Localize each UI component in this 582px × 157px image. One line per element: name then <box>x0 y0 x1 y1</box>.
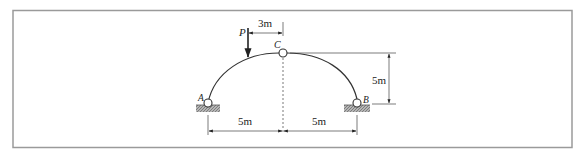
hinge-c-label: C <box>274 39 281 50</box>
hinge-b-icon <box>353 99 361 107</box>
hinge-b-label: B <box>363 95 369 105</box>
dim-left-span-label: 5m <box>238 115 253 127</box>
dim-right-span-label: 5m <box>312 115 327 127</box>
load-p-label: P <box>238 26 246 38</box>
hinge-c-icon <box>279 49 287 57</box>
arch-right-half <box>287 53 357 99</box>
dim-3m-label: 3m <box>258 17 273 29</box>
hinge-a-icon <box>204 99 212 107</box>
arch-left-half <box>208 53 279 103</box>
arch-diagram: P 3m C A B 5m 5m 5m <box>0 0 582 157</box>
figure-frame <box>13 11 572 148</box>
hinge-a-label: A <box>197 93 204 103</box>
dim-rise-label: 5m <box>372 74 387 86</box>
